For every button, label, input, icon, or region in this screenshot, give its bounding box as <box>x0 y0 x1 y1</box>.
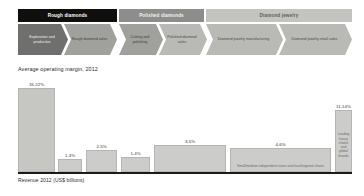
bar-value-label: 4-6% <box>230 142 331 147</box>
x-axis-label: Revenue 2012 (US$ billions) <box>18 177 84 183</box>
bar-value-label: 2-5% <box>86 144 117 149</box>
group-band-polished-diamonds: Polished diamonds <box>119 9 204 22</box>
chart-title: Average operating margin, 2012 <box>18 66 98 72</box>
bar-rough-diamond-sales <box>58 159 82 172</box>
bar-cutting-and-polishing <box>86 150 117 172</box>
stage-label: Rough diamond sales <box>72 37 108 42</box>
value-chain-stage-row: Exploration and production Rough diamond… <box>18 24 352 55</box>
group-band-diamond-jewelry: Diamond jewelry <box>206 9 352 22</box>
bar-value-label: 1-4% <box>121 151 150 156</box>
value-chain-banner: Rough diamonds Polished diamonds Diamond… <box>18 9 352 55</box>
group-band-rough-diamonds: Rough diamonds <box>18 9 117 22</box>
bar-retail-small-medium <box>230 148 331 172</box>
bar-inner-label-retail-small-medium: Small/medium independent stores and loca… <box>230 164 331 168</box>
bar-polished-diamond-sales <box>121 157 150 172</box>
stage-label: Diamond jewelry retail sales <box>292 37 338 42</box>
bar-inner-label-retail-luxury: Leading luxury chains and global brands <box>335 132 352 158</box>
bar-value-label: 1-3% <box>58 153 82 158</box>
bar-value-label: 11-14% <box>331 104 356 109</box>
stage-diamond-jewelry-manufacturing: Diamond jewelry manufacturing <box>206 24 283 55</box>
stage-polished-diamond-sales: Polished diamond sales <box>159 24 207 55</box>
stage-cutting-and-polishing: Cutting and polishing <box>119 24 163 55</box>
stage-label: Cutting and polishing <box>123 35 157 44</box>
margin-bar-chart: 16-22% 1-3% 2-5% 1-4% 3-5% Small/medium … <box>18 74 352 172</box>
bar-diamond-jewelry-manufacturing <box>154 145 226 172</box>
stage-exploration-and-production: Exploration and production <box>18 24 68 55</box>
stage-diamond-jewelry-retail-sales: Diamond jewelry retail sales <box>279 24 352 55</box>
x-axis-line <box>18 172 352 174</box>
bar-value-label: 3-5% <box>154 139 226 144</box>
stage-label: Exploration and production <box>22 35 62 44</box>
bar-exploration-and-production <box>18 88 55 172</box>
stage-rough-diamond-sales: Rough diamond sales <box>64 24 117 55</box>
stage-label: Diamond jewelry manufacturing <box>218 37 270 42</box>
bar-value-label: 16-22% <box>18 82 55 87</box>
stage-label: Polished diamond sales <box>163 35 201 44</box>
diamond-value-chain-figure: Rough diamonds Polished diamonds Diamond… <box>0 0 364 196</box>
